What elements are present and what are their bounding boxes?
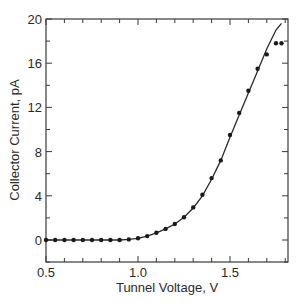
data-point [154,231,158,235]
data-point [200,193,204,197]
data-point [219,158,223,162]
plot-frame [46,19,288,262]
model-curve [46,23,282,240]
chart: 0.51.01.5048121620 Tunnel Voltage, V Col… [0,0,301,303]
y-tick-label: 4 [35,189,42,204]
data-markers [44,41,284,242]
data-point [53,238,57,242]
x-tick-label: 1.0 [129,265,147,280]
data-point [44,238,48,242]
data-point [279,41,283,45]
x-tick-label: 1.5 [221,265,239,280]
data-point [274,41,278,45]
data-point [255,67,259,71]
data-point [62,238,66,242]
y-tick-label: 12 [28,100,42,115]
data-point [81,238,85,242]
data-point [108,238,112,242]
data-point [117,238,121,242]
axis-ticks [46,19,288,262]
y-tick-label: 16 [28,56,42,71]
x-tick-label: 0.5 [37,265,55,280]
y-axis-title: Collector Current, pA [7,79,22,201]
y-tick-label: 8 [35,145,42,160]
data-point [163,227,167,231]
x-axis-title: Tunnel Voltage, V [116,280,218,295]
data-point [182,215,186,219]
data-point [209,176,213,180]
data-point [228,133,232,137]
data-point [90,238,94,242]
data-point [136,236,140,240]
data-point [246,89,250,93]
data-point [237,111,241,115]
data-point [191,205,195,209]
data-point [265,52,269,56]
data-point [173,222,177,226]
data-point [99,238,103,242]
data-point [127,237,131,241]
data-point [71,238,75,242]
data-point [145,234,149,238]
y-tick-label: 0 [35,233,42,248]
y-tick-label: 20 [28,12,42,27]
